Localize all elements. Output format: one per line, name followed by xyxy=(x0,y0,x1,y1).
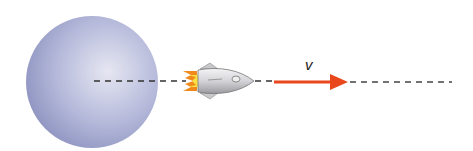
rocket-icon xyxy=(183,63,254,99)
diagram-svg xyxy=(0,0,473,151)
planet xyxy=(26,16,158,148)
velocity-arrow xyxy=(274,74,348,90)
velocity-label: v xyxy=(305,56,313,73)
diagram-canvas: v xyxy=(0,0,473,151)
